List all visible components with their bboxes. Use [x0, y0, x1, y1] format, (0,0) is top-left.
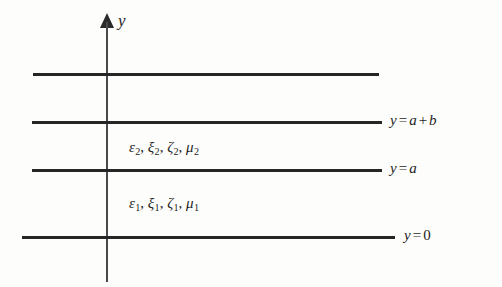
param-xi-2: ξ2	[148, 139, 160, 155]
label-y-equals-0: y=0	[404, 228, 431, 243]
interface-line-y-equals-a	[32, 169, 382, 172]
separator-comma: ,	[179, 195, 187, 211]
label-lhs-y: y	[390, 160, 397, 176]
separator-comma: ,	[179, 139, 187, 155]
param-epsilon-2: ε2	[129, 139, 140, 155]
param-mu-2: μ2	[186, 139, 199, 155]
param-epsilon-1: ε1	[129, 195, 140, 211]
param-zeta-2: ζ2	[167, 139, 178, 155]
label-y-equals-a: y=a	[390, 161, 417, 176]
y-axis-line	[106, 22, 108, 282]
label-plus-sign: +	[417, 112, 429, 128]
separator-comma: ,	[140, 195, 148, 211]
layered-media-diagram: y y=a+b y=a y=0 ε2, ξ2, ζ2, μ2 ε1, ξ1, ζ…	[0, 0, 502, 287]
label-equals-sign: =	[397, 112, 409, 128]
interface-line-y-equals-a-plus-b	[32, 121, 382, 124]
separator-comma: ,	[140, 139, 148, 155]
interface-line-y-equals-0	[22, 236, 395, 239]
param-zeta-1: ζ1	[167, 195, 178, 211]
label-equals-sign: =	[411, 227, 423, 243]
y-axis-label: y	[118, 12, 126, 29]
label-lhs-y: y	[390, 112, 397, 128]
param-mu-1: μ1	[186, 195, 199, 211]
label-term-zero: 0	[423, 227, 431, 243]
label-equals-sign: =	[397, 160, 409, 176]
label-term-a: a	[409, 112, 417, 128]
medium-1-parameters: ε1, ξ1, ζ1, μ1	[129, 196, 199, 213]
interface-line-top-boundary	[33, 73, 379, 76]
label-term-a: a	[409, 160, 417, 176]
param-xi-1: ξ1	[148, 195, 160, 211]
label-lhs-y: y	[404, 227, 411, 243]
label-y-equals-a-plus-b: y=a+b	[390, 113, 437, 128]
medium-2-parameters: ε2, ξ2, ζ2, μ2	[129, 140, 199, 157]
label-term-b: b	[429, 112, 437, 128]
